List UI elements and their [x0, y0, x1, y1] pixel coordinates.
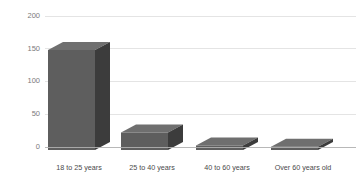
x-label-over-60-years-old: Over 60 years old [275, 163, 332, 172]
x-label-18-to-25-years: 18 to 25 years [56, 163, 102, 172]
bar-chart: 200 150 100 50 0 [0, 0, 363, 186]
y-tick-150: 150 [27, 44, 40, 53]
y-tick-50: 50 [32, 109, 40, 118]
bar-1-side-face [95, 42, 110, 150]
y-tick-200: 200 [27, 11, 40, 20]
bar-18-to-25-years[interactable] [48, 42, 110, 150]
bar-25-to-40-years[interactable] [121, 125, 183, 150]
y-tick-0: 0 [36, 142, 40, 151]
bar-1-front-face [48, 50, 95, 150]
y-tick-100: 100 [27, 76, 40, 85]
bar-3-front-face [196, 145, 243, 150]
x-label-25-to-40-years: 25 to 40 years [129, 163, 175, 172]
x-label-40-to-60-years: 40 to 60 years [204, 163, 250, 172]
chart-canvas: 200 150 100 50 0 [0, 0, 363, 186]
